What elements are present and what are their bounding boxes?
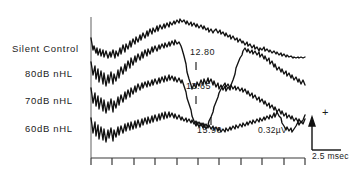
latency-label-12-80: 12.80 <box>190 48 215 57</box>
time-axis-ticks <box>91 158 305 165</box>
latency-marker-ticks <box>196 62 211 125</box>
calibration-arrowhead-icon <box>309 117 315 126</box>
trace-label-silent-control: Silent Control <box>12 44 79 54</box>
calibration-bar <box>309 117 341 150</box>
waveform-plot-canvas <box>0 0 352 171</box>
polarity-plus-label: + <box>322 107 328 118</box>
trace-label-80db-nhl: 80dB nHL <box>25 69 73 79</box>
trace-label-70db-nhl: 70dB nHL <box>25 96 73 106</box>
calibration-amplitude-label: 0.32µV <box>258 126 287 135</box>
latency-label-13-65: 13.65 <box>186 82 211 91</box>
calibration-time-label: 2.5 msec <box>312 152 349 161</box>
waveform-figure: Silent Control 80dB nHL 70dB nHL 60dB nH… <box>0 0 352 171</box>
trace-label-60db-nhl: 60dB nHL <box>25 124 73 134</box>
latency-label-15-90: 15.90 <box>197 126 222 135</box>
